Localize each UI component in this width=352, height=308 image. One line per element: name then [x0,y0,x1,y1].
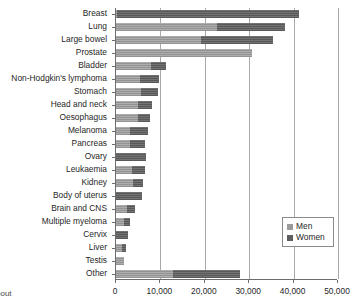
category-label: Testis [86,256,107,265]
bar-segment-women [132,166,145,174]
bar-segment-men [116,270,173,278]
bar-row [116,49,338,57]
y-axis-tick [112,131,115,132]
category-label: Lung [88,22,107,31]
bar-row [116,270,338,278]
category-label: Other [86,269,107,278]
bar-row [116,257,338,265]
category-label: Bladder [78,61,107,70]
category-axis-labels: BreastLungLarge bowelProstateBladderNon-… [0,8,111,280]
bar-row [116,10,338,18]
y-axis-tick [112,27,115,28]
legend-swatch-icon-men [287,224,293,230]
bar-segment-men [116,179,133,187]
legend-swatch-icon-women [287,235,293,241]
x-axis-tick-label: 30,000 [223,286,273,296]
legend: Men Women [282,217,334,247]
x-axis-tick-label: 40,000 [268,286,318,296]
y-axis-tick [112,40,115,41]
bar-segment-women [151,62,166,70]
y-axis-tick [112,235,115,236]
category-label: Pancreas [72,139,107,148]
bar-segment-women [173,270,240,278]
category-label: Body of uterus [53,191,107,200]
horizontal-stacked-bar-chart: BreastLungLarge bowelProstateBladderNon-… [0,0,352,308]
legend-item-women: Women [287,232,330,243]
category-label: Breast [83,9,107,18]
legend-item-men: Men [287,221,330,232]
x-axis-tick [115,280,116,283]
y-axis-tick [112,53,115,54]
bar-segment-men [116,88,141,96]
y-axis-tick [112,118,115,119]
gridline [338,8,339,279]
bar-segment-men [116,205,127,213]
bar-row [116,114,338,122]
corner-caption: bout [0,289,12,298]
y-axis-tick [112,92,115,93]
category-label: Melanoma [68,126,107,135]
category-label: Cervix [83,230,107,239]
x-axis-tick-label: 20,000 [179,286,229,296]
x-axis-tick [159,280,160,283]
bar-segment-women [122,244,126,252]
y-axis-tick [112,196,115,197]
category-label: Multiple myeloma [42,217,107,226]
bar-segment-men [116,114,138,122]
bar-segment-men [116,49,252,57]
bar-segment-men [116,218,124,226]
x-axis-tick-label: 50,000 [312,286,352,296]
legend-label-women: Women [296,232,325,243]
bar-segment-women [130,140,145,148]
bar-row [116,75,338,83]
bar-segment-men [116,75,140,83]
category-label: Oesophagus [60,113,108,122]
bar-segment-women [124,218,131,226]
y-axis-tick [112,183,115,184]
y-axis-tick [112,79,115,80]
x-axis-tick-label: 0 [90,286,140,296]
bar-segment-men [116,166,132,174]
bar-segment-women [141,88,158,96]
y-axis-tick [112,274,115,275]
bar-segment-men [116,23,217,31]
category-label: Ovary [85,152,107,161]
y-axis-tick [112,66,115,67]
bar-segment-women [133,179,143,187]
category-label: Large bowel [61,35,107,44]
category-label: Leukaemia [66,165,107,174]
x-axis-tick [248,280,249,283]
y-axis-tick [112,157,115,158]
bar-row [116,140,338,148]
category-label: Liver [89,243,107,252]
bar-segment-men [116,257,124,265]
bar-segment-women [130,127,148,135]
bar-row [116,205,338,213]
bar-segment-women [140,75,159,83]
bar-segment-women [116,153,146,161]
category-label: Kidney [81,178,107,187]
y-axis-tick [112,144,115,145]
x-axis-tick [337,280,338,283]
bar-row [116,23,338,31]
bar-segment-men [116,36,201,44]
bar-segment-men [116,62,151,70]
bar-row [116,62,338,70]
y-axis-tick [112,170,115,171]
bar-row [116,153,338,161]
legend-label-men: Men [296,221,312,232]
bar-segment-women [138,114,150,122]
category-label: Prostate [76,48,107,57]
y-axis-tick [112,14,115,15]
category-label: Brain and CNS [51,204,107,213]
bar-segment-women [138,101,152,109]
x-axis-tick-label: 10,000 [134,286,184,296]
bar-row [116,166,338,174]
bar-row [116,127,338,135]
y-axis-tick [112,222,115,223]
y-axis-tick [112,261,115,262]
bar-row [116,179,338,187]
bar-row [116,36,338,44]
y-axis-tick [112,105,115,106]
category-label: Stomach [74,87,107,96]
